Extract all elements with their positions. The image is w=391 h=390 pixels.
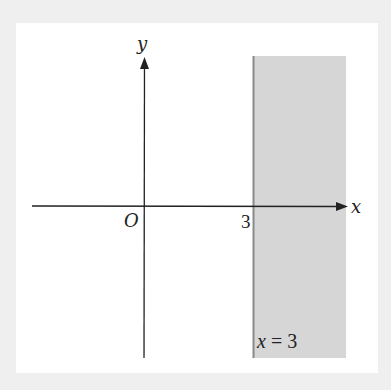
y-axis [144,66,145,358]
x-axis [32,206,340,207]
y-axis-arrow-icon [140,57,149,69]
boundary-equation-label: x = 3 [256,330,297,352]
tick-label-3: 3 [241,211,251,232]
origin-label: O [124,210,139,231]
y-axis-label: y [136,33,148,54]
x-axis-label: x [351,196,361,217]
coordinate-plane: x y O 3 x = 3 [0,0,391,390]
